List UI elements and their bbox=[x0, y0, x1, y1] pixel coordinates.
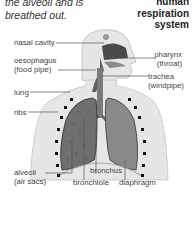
label-pharynx-sub: (throat) bbox=[154, 59, 182, 68]
label-trachea: trachea (windpipe) bbox=[148, 72, 184, 90]
label-alveoli: alveoli (air sacs) bbox=[14, 168, 46, 186]
label-oesophagus-name: oesophagus bbox=[14, 56, 57, 65]
label-trachea-sub: (windpipe) bbox=[148, 81, 184, 90]
label-trachea-name: trachea bbox=[148, 72, 184, 81]
label-pharynx: pharynx (throat) bbox=[154, 50, 182, 68]
label-pharynx-name: pharynx bbox=[154, 50, 182, 59]
label-nasal-cavity: nasal cavity bbox=[14, 38, 55, 47]
label-oesophagus-sub: (food pipe) bbox=[14, 65, 57, 74]
sinus-dot bbox=[103, 34, 109, 40]
label-alveoli-sub: (air sacs) bbox=[14, 177, 46, 186]
trachea-shape bbox=[97, 68, 103, 118]
label-bronchiole: bronchiole bbox=[73, 178, 109, 187]
label-bronchus: bronchus bbox=[90, 166, 122, 175]
label-alveoli-name: alveoli bbox=[14, 168, 46, 177]
label-diaphragm: diaphragm bbox=[119, 178, 156, 187]
label-lung: lung bbox=[14, 88, 29, 97]
label-ribs: ribs bbox=[14, 108, 27, 117]
label-oesophagus: oesophagus (food pipe) bbox=[14, 56, 57, 74]
